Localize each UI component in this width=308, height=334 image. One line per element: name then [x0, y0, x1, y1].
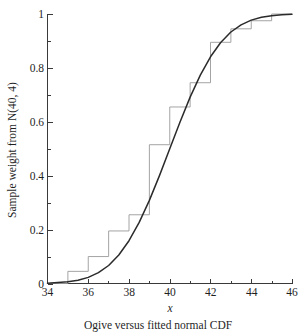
x-tick-label-36: 36 [83, 286, 95, 298]
x-tick-label-38: 38 [123, 286, 135, 298]
x-tick-label-42: 42 [205, 286, 217, 298]
x-tick-label-46: 46 [286, 286, 298, 298]
figure-caption: Ogive versus fitted normal CDF [84, 319, 232, 332]
y-tick-label-1: 1 [38, 8, 44, 20]
x-tick-label-44: 44 [246, 286, 258, 298]
x-tick-label-34: 34 [42, 286, 54, 298]
ogive-vs-normal-cdf-chart: 0 0.2 0.4 0.6 0.8 1 34 36 38 40 42 44 46… [0, 0, 308, 334]
y-tick-label-0.8: 0.8 [30, 62, 45, 74]
y-tick-label-0.2: 0.2 [30, 224, 45, 236]
x-axis-title: x [166, 302, 173, 314]
y-tick-label-0.6: 0.6 [30, 116, 45, 128]
figure-container: 0 0.2 0.4 0.6 0.8 1 34 36 38 40 42 44 46… [0, 0, 308, 334]
y-tick-label-0.4: 0.4 [30, 170, 45, 182]
x-tick-label-40: 40 [164, 286, 176, 298]
y-axis-title: Sample weight from N(40, 4) [6, 82, 19, 218]
